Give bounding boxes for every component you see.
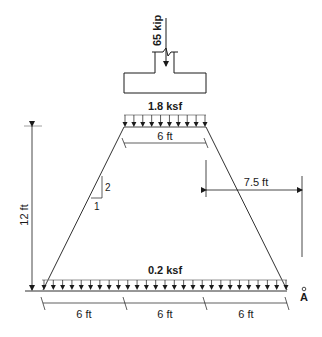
load-arrow-head-icon — [218, 285, 223, 290]
load-arrow-head-icon — [265, 285, 270, 290]
bottom-middle-width-label: 6 ft — [157, 308, 172, 320]
bottom-left-width-label: 6 ft — [76, 308, 91, 320]
slope-run-label: 1 — [94, 201, 100, 212]
load-arrow-head-icon — [135, 285, 140, 290]
load-arrow-head-icon — [144, 285, 149, 290]
load-arrow-head-icon — [140, 122, 145, 127]
load-arrow-head-icon — [203, 122, 208, 127]
bottom-pressure-label: 0.2 ksf — [148, 264, 183, 276]
slope-indicator — [91, 176, 102, 198]
bottom-pressure-load: 0.2 ksf — [25, 264, 289, 291]
column-load-label: 65 kip — [151, 15, 163, 46]
footing — [124, 48, 206, 93]
load-arrow-head-icon — [274, 285, 279, 290]
footing-stress-diagram: 65 kip 1.8 ksf 6 ft 2 1 12 ft 7.5 ft 0.2… — [0, 0, 322, 337]
load-arrow-head-icon — [176, 122, 181, 127]
load-arrow-head-icon — [79, 285, 84, 290]
bottom-right-width-label: 6 ft — [238, 308, 253, 320]
load-arrow-head-icon — [116, 285, 121, 290]
load-arrow-head-icon — [125, 285, 130, 290]
offset-label: 7.5 ft — [244, 176, 268, 188]
load-arrow-head-icon — [149, 122, 154, 127]
offset-dimension — [206, 160, 302, 257]
load-arrow-head-icon — [88, 285, 93, 290]
load-arrow-head-icon — [209, 285, 214, 290]
column-load-arrow: 65 kip — [151, 15, 166, 66]
slope-rise-label: 2 — [105, 182, 111, 193]
column-stub — [124, 52, 206, 93]
load-arrow-head-icon — [237, 285, 242, 290]
top-pressure-label: 1.8 ksf — [148, 100, 183, 112]
load-arrow-head-icon — [246, 285, 251, 290]
depth-label: 12 ft — [18, 204, 30, 225]
load-arrow-head-icon — [167, 122, 172, 127]
load-arrow-head-icon — [107, 285, 112, 290]
load-arrow-head-icon — [97, 285, 102, 290]
load-arrow-head-icon — [42, 285, 47, 290]
load-arrow-head-icon — [158, 122, 163, 127]
load-arrow-head-icon — [153, 285, 158, 290]
load-arrow-head-icon — [172, 285, 177, 290]
load-arrow-head-icon — [51, 285, 56, 290]
load-arrow-head-icon — [200, 285, 205, 290]
load-arrow-head-icon — [190, 285, 195, 290]
top-pressure-load: 1.8 ksf — [123, 100, 208, 127]
load-arrow-head-icon — [185, 122, 190, 127]
point-a-label: A — [300, 291, 308, 303]
load-arrow-head-icon — [181, 285, 186, 290]
load-arrow-head-icon — [194, 122, 199, 127]
load-arrow-head-icon — [123, 122, 128, 127]
load-arrow-head-icon — [163, 285, 168, 290]
load-arrow-head-icon — [60, 285, 65, 290]
load-arrow-head-icon — [69, 285, 74, 290]
load-arrow-head-icon — [284, 285, 289, 290]
load-arrow-head-icon — [131, 122, 136, 127]
load-arrow-head-icon — [256, 285, 261, 290]
footing-width-label: 6 ft — [157, 130, 172, 142]
load-arrow-head-icon — [228, 285, 233, 290]
